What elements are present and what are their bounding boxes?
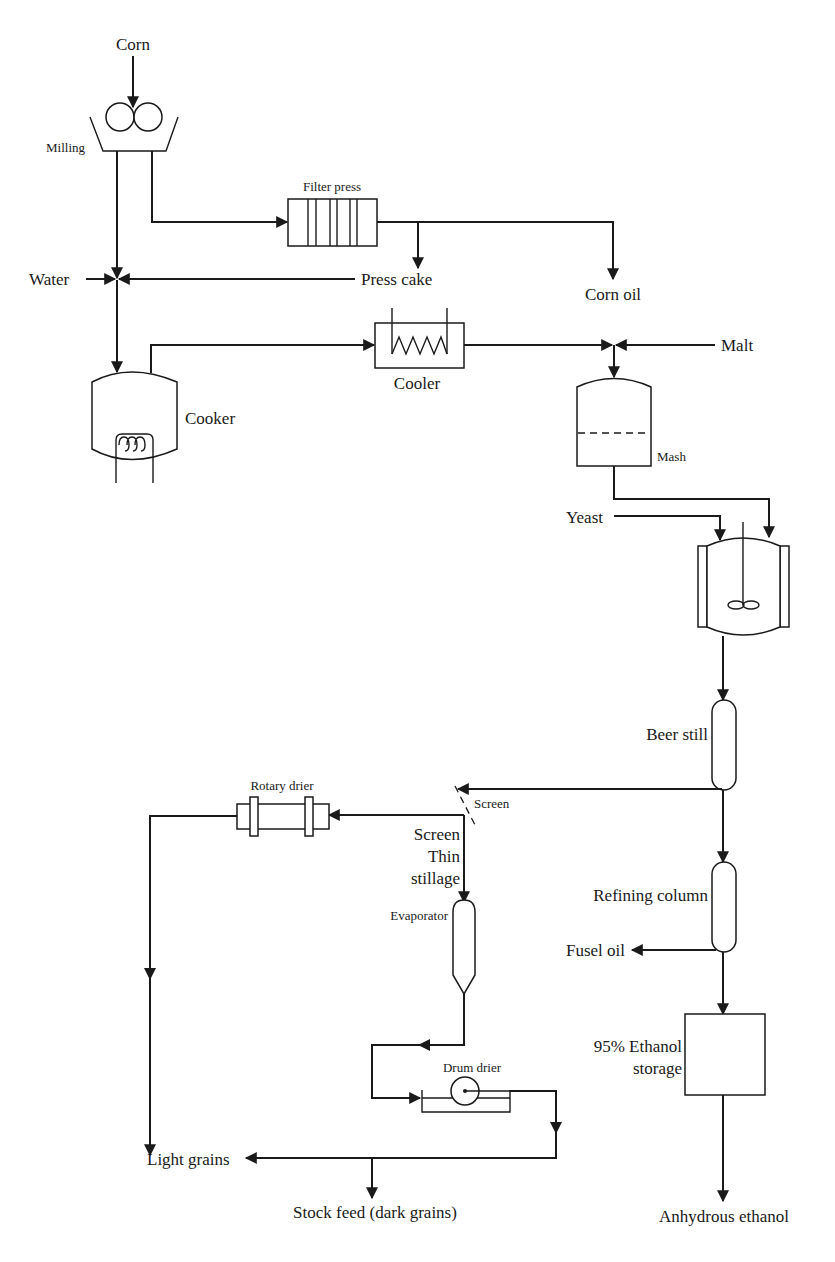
water-label: Water	[29, 270, 69, 289]
flow-milling-to-filter-press	[152, 151, 287, 222]
corn-label: Corn	[116, 35, 151, 54]
flow-evaporator-to-drum-drier	[372, 994, 464, 1098]
evaporator-column	[453, 900, 475, 994]
press-cake-label: Press cake	[361, 270, 432, 289]
cooker-label: Cooker	[185, 409, 235, 428]
rotary-drier-label: Rotary drier	[250, 778, 314, 793]
stock-feed-label: Stock feed (dark grains)	[293, 1203, 457, 1222]
drum-drier	[422, 1077, 510, 1112]
milling-unit	[90, 103, 178, 151]
filter-press-label: Filter press	[303, 179, 361, 194]
beer-still-label: Beer still	[646, 725, 708, 744]
milling-hopper	[90, 117, 178, 151]
filter-press	[288, 199, 377, 246]
screen-label: Screen	[414, 825, 461, 844]
screen-label-top: Screen	[474, 796, 510, 811]
thin-label: Thin	[428, 847, 461, 866]
ethanol-storage-label-1: 95% Ethanol	[594, 1037, 683, 1056]
ethanol-storage-tank	[685, 1014, 765, 1095]
ethanol-storage-label-2: storage	[633, 1059, 682, 1078]
rotary-drier	[237, 797, 329, 836]
mash-tank	[577, 379, 651, 467]
flow-rotary-drier-to-light-grains	[150, 816, 237, 1155]
refining-column	[712, 862, 736, 952]
mid-arrow-icon	[550, 1122, 562, 1134]
mill-roller-left-icon	[106, 103, 134, 131]
light-grains-label: Light grains	[147, 1150, 230, 1169]
mash-label: Mash	[657, 449, 686, 464]
anhydrous-ethanol-label: Anhydrous ethanol	[659, 1207, 789, 1226]
process-flow-diagram: Corn Milling Filter press Corn oil Water…	[0, 0, 835, 1262]
flow-yeast-in	[614, 516, 720, 540]
fusel-oil-label: Fusel oil	[566, 941, 625, 960]
fermenter-vessel	[698, 522, 789, 635]
malt-label: Malt	[721, 336, 753, 355]
corn-oil-label: Corn oil	[585, 285, 641, 304]
evaporator-label: Evaporator	[390, 908, 448, 923]
cooker-vessel	[92, 372, 177, 483]
stillage-label: stillage	[411, 869, 460, 888]
refining-column-label: Refining column	[593, 886, 708, 905]
drum-drier-label: Drum drier	[443, 1060, 502, 1075]
mill-roller-right-icon	[134, 103, 162, 131]
flow-cooker-to-cooler	[151, 345, 374, 373]
mid-arrow-icon	[418, 1039, 430, 1051]
mid-arrow-icon	[144, 968, 156, 980]
milling-label: Milling	[46, 140, 86, 155]
cooler-label: Cooler	[394, 374, 441, 393]
cooler-unit	[375, 308, 464, 368]
flow-mash-to-fermenter	[614, 466, 769, 537]
yeast-label: Yeast	[566, 508, 603, 527]
beer-still-column	[712, 700, 736, 790]
